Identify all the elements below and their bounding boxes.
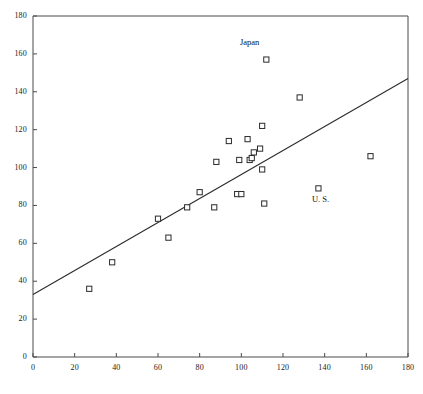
data-point: [260, 167, 265, 172]
scatter-chart-figure: 0204060801001201401601800204060801001201…: [0, 0, 423, 394]
data-point: [251, 150, 256, 155]
x-tick-label-0: 0: [18, 363, 48, 372]
annotation-japan: Japan: [228, 37, 272, 47]
data-point: [226, 138, 231, 143]
data-point: [368, 154, 373, 159]
x-tick-label-60: 60: [143, 363, 173, 372]
x-tick-label-180: 180: [393, 363, 423, 372]
y-tick-label-140: 140: [0, 87, 27, 96]
x-tick-label-20: 20: [60, 363, 90, 372]
data-point: [237, 157, 242, 162]
data-point: [197, 190, 202, 195]
y-tick-label-180: 180: [0, 11, 27, 20]
data-point: [239, 191, 244, 196]
data-point: [316, 186, 321, 191]
data-markers: [87, 57, 373, 291]
y-tick-label-160: 160: [0, 49, 27, 58]
data-point: [297, 95, 302, 100]
data-point: [214, 159, 219, 164]
data-point: [166, 235, 171, 240]
y-tick-label-0: 0: [0, 352, 27, 361]
x-tick-label-40: 40: [101, 363, 131, 372]
chart-canvas: [0, 0, 423, 394]
data-point: [262, 201, 267, 206]
y-tick-label-100: 100: [0, 163, 27, 172]
x-tick-label-160: 160: [351, 363, 381, 372]
data-point: [257, 146, 262, 151]
y-tick-label-80: 80: [0, 200, 27, 209]
data-point: [264, 57, 269, 62]
x-tick-label-100: 100: [226, 363, 256, 372]
data-point: [110, 260, 115, 265]
y-tick-label-120: 120: [0, 125, 27, 134]
data-point: [245, 137, 250, 142]
data-point: [260, 123, 265, 128]
data-point: [212, 205, 217, 210]
x-tick-label-120: 120: [268, 363, 298, 372]
x-tick-label-80: 80: [185, 363, 215, 372]
trendline: [33, 79, 408, 295]
annotation-u-s: U. S.: [299, 194, 343, 204]
data-point: [155, 216, 160, 221]
x-tick-label-140: 140: [310, 363, 340, 372]
y-tick-label-40: 40: [0, 276, 27, 285]
data-point: [185, 205, 190, 210]
data-point: [249, 155, 254, 160]
y-tick-label-60: 60: [0, 238, 27, 247]
y-tick-label-20: 20: [0, 314, 27, 323]
data-point: [87, 286, 92, 291]
